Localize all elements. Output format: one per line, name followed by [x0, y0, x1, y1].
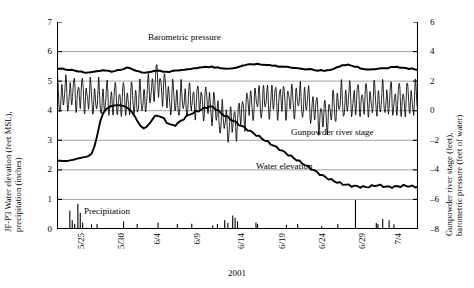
y-axis-right-tick-label: 6 — [430, 18, 450, 27]
x-axis-tick-label: 5/30 — [117, 233, 126, 249]
series-label-water-elevation: Water elevation — [256, 161, 313, 171]
x-axis-tick-label: 6/29 — [358, 233, 367, 249]
y-axis-left-tick-label: 7 — [32, 18, 52, 27]
y-axis-left-tick-label: 0 — [32, 225, 52, 234]
y-axis-left-tick-label: 5 — [32, 77, 52, 86]
y-axis-right-tick-label: 2 — [430, 77, 450, 86]
series-lines — [57, 64, 418, 229]
series-label-barometric-pressure: Barometric pressure — [148, 32, 221, 42]
series-label-gunpowder-river-stage: Gunpowder river stage — [291, 127, 373, 137]
y-axis-right-title-line2: barometric pressure (feet of water) — [454, 8, 464, 236]
x-axis-tick-label: 6/24 — [318, 233, 327, 249]
y-axis-right-tick-label: 0 — [430, 106, 450, 115]
y-axis-left-title-line2: precipitation (inches) — [13, 8, 23, 232]
y-axis-left-title: JF-P3 Water elevation (feet MSL), precip… — [3, 8, 23, 232]
series-label-precipitation: Precipitation — [84, 206, 130, 216]
y-axis-left-tick-label: 2 — [32, 165, 52, 174]
x-axis-tick-label: 6/9 — [193, 233, 202, 245]
x-axis-tick-label: 6/4 — [153, 233, 162, 245]
plot-svg — [57, 22, 418, 229]
y-axis-left-tick-label: 6 — [32, 47, 52, 56]
chart-figure: JF-P3 Water elevation (feet MSL), precip… — [0, 0, 474, 288]
x-axis-tick-label: 5/25 — [77, 233, 86, 249]
y-axis-left-tick-label: 1 — [32, 195, 52, 204]
y-axis-left-title-line1: JF-P3 Water elevation (feet MSL), — [3, 8, 13, 232]
y-axis-right-tick-label: –2 — [430, 136, 450, 145]
y-axis-right-tick-label: 4 — [430, 47, 450, 56]
x-axis-tick-label: 6/19 — [278, 233, 287, 249]
y-axis-right-tick-label: –4 — [430, 165, 450, 174]
plot-area — [57, 22, 418, 229]
y-axis-right-tick-label: –8 — [430, 225, 450, 234]
x-axis-title: 2001 — [0, 268, 474, 278]
x-axis-tick-label: 6/14 — [237, 233, 246, 249]
y-axis-left-tick-label: 4 — [32, 106, 52, 115]
y-axis-right-tick-label: –6 — [430, 195, 450, 204]
x-axis-tick-label: 7/4 — [393, 233, 402, 245]
y-axis-left-tick-label: 3 — [32, 136, 52, 145]
